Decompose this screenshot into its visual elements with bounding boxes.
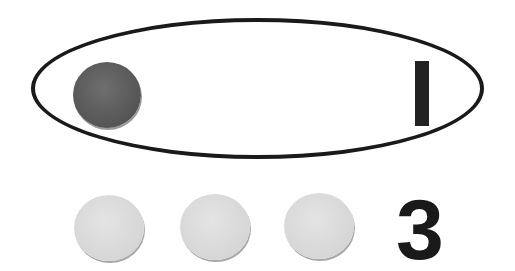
numeral-one: [415, 61, 429, 126]
light-counter-3: [284, 193, 354, 259]
numeral-three: 3: [396, 186, 444, 271]
light-counter-1: [74, 195, 144, 261]
dark-counter: [73, 62, 141, 128]
light-counter-2: [180, 194, 250, 260]
